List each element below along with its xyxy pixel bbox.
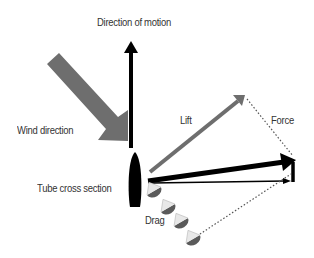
lift-label: Lift: [180, 114, 192, 126]
force-label: Force: [271, 114, 294, 126]
tube-cross-section-label: Tube cross section: [37, 182, 111, 194]
tube-cross-section-shape: [129, 152, 142, 207]
drag-label: Drag: [145, 214, 164, 226]
drag-umbrella-icon: [181, 226, 203, 248]
wind-direction-label: Wind direction: [17, 124, 73, 136]
lift-arrow: [150, 95, 245, 172]
lift-force-dotted-line: [247, 99, 293, 156]
drag-force-dotted-line: [197, 174, 291, 236]
drag-umbrella-icon: [169, 209, 191, 231]
direction-of-motion-label: Direction of motion: [97, 16, 171, 28]
